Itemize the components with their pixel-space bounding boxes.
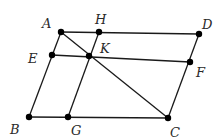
labels: AHDEKFBGC xyxy=(9,12,213,139)
label-C: C xyxy=(170,125,180,139)
point-E xyxy=(49,52,55,58)
point-B xyxy=(26,114,32,120)
segment-HG xyxy=(68,32,99,117)
diagram-svg: AHDEKFBGC xyxy=(0,0,224,139)
label-H: H xyxy=(94,12,107,27)
point-F xyxy=(187,59,193,65)
segment-EF xyxy=(52,55,190,62)
point-K xyxy=(86,53,92,59)
label-G: G xyxy=(71,123,81,138)
point-A xyxy=(58,29,64,35)
label-E: E xyxy=(27,51,38,66)
segment-AD xyxy=(61,32,199,34)
segment-DC xyxy=(168,34,199,118)
segment-BA xyxy=(29,32,61,117)
label-D: D xyxy=(201,17,213,32)
label-K: K xyxy=(99,41,111,56)
label-F: F xyxy=(195,65,206,80)
point-H xyxy=(96,29,102,35)
segment-CB xyxy=(29,117,168,118)
segments xyxy=(29,32,199,118)
point-C xyxy=(165,115,171,121)
point-G xyxy=(65,114,71,120)
label-B: B xyxy=(9,122,20,137)
label-A: A xyxy=(41,16,51,31)
segment-AC xyxy=(61,32,168,118)
geometry-diagram: AHDEKFBGC xyxy=(0,0,224,139)
